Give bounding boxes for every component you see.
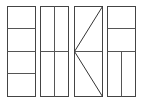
partition-diagram: [0, 0, 145, 102]
panel-3-diagonal-triangles: [75, 7, 103, 97]
panel-1-horizontal-quarters: [8, 7, 36, 97]
panel-4-mixed-partition: [108, 7, 136, 97]
panel-3-diagonal-line: [75, 7, 103, 52]
panel-2-quadrants: [41, 7, 69, 97]
panel-3-diagonal-line: [75, 52, 103, 97]
